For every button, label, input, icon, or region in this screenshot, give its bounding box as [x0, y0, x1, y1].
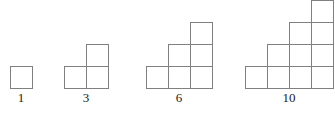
unit-square [87, 67, 109, 89]
figure-3-count-label: 6 [149, 91, 209, 104]
unit-square [268, 45, 290, 67]
unit-square [87, 45, 109, 67]
figure-4 [246, 1, 334, 89]
unit-square [11, 67, 33, 89]
unit-square [312, 1, 334, 23]
unit-square [290, 67, 312, 89]
unit-square [290, 45, 312, 67]
unit-square [147, 67, 169, 89]
figure-3 [147, 23, 213, 89]
unit-square [65, 67, 87, 89]
unit-square [169, 45, 191, 67]
unit-square [191, 45, 213, 67]
unit-square [290, 23, 312, 45]
unit-square [246, 67, 268, 89]
unit-square [268, 67, 290, 89]
unit-square [312, 23, 334, 45]
unit-square [312, 67, 334, 89]
triangular-number-diagram: 13610 [0, 0, 335, 120]
figure-1-count-label: 1 [0, 91, 51, 104]
unit-square [191, 23, 213, 45]
unit-square [191, 67, 213, 89]
figure-1 [11, 67, 33, 89]
unit-square [312, 45, 334, 67]
figure-4-count-label: 10 [259, 91, 319, 104]
unit-square [169, 67, 191, 89]
figure-2-count-label: 3 [56, 91, 116, 104]
figure-2 [65, 45, 109, 89]
